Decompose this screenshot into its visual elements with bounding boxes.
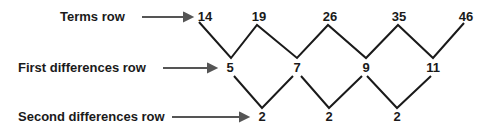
second-difference-value: 2	[393, 110, 400, 124]
first-difference-value: 7	[293, 61, 300, 75]
first-difference-value: 11	[426, 61, 440, 75]
term-value: 46	[459, 10, 473, 24]
term-value: 35	[392, 10, 406, 24]
term-value: 19	[252, 10, 266, 24]
first-difference-value: 9	[362, 61, 369, 75]
first-difference-value: 5	[226, 61, 233, 75]
second-differences-row-label: Second differences row	[18, 110, 165, 124]
term-value: 14	[198, 10, 212, 24]
difference-table-diagram: Terms row First differences row Second d…	[0, 0, 484, 133]
term-value: 26	[323, 10, 337, 24]
first-differences-row-label: First differences row	[18, 61, 146, 75]
terms-row-label: Terms row	[60, 10, 125, 24]
second-difference-value: 2	[325, 110, 332, 124]
second-difference-value: 2	[258, 110, 265, 124]
